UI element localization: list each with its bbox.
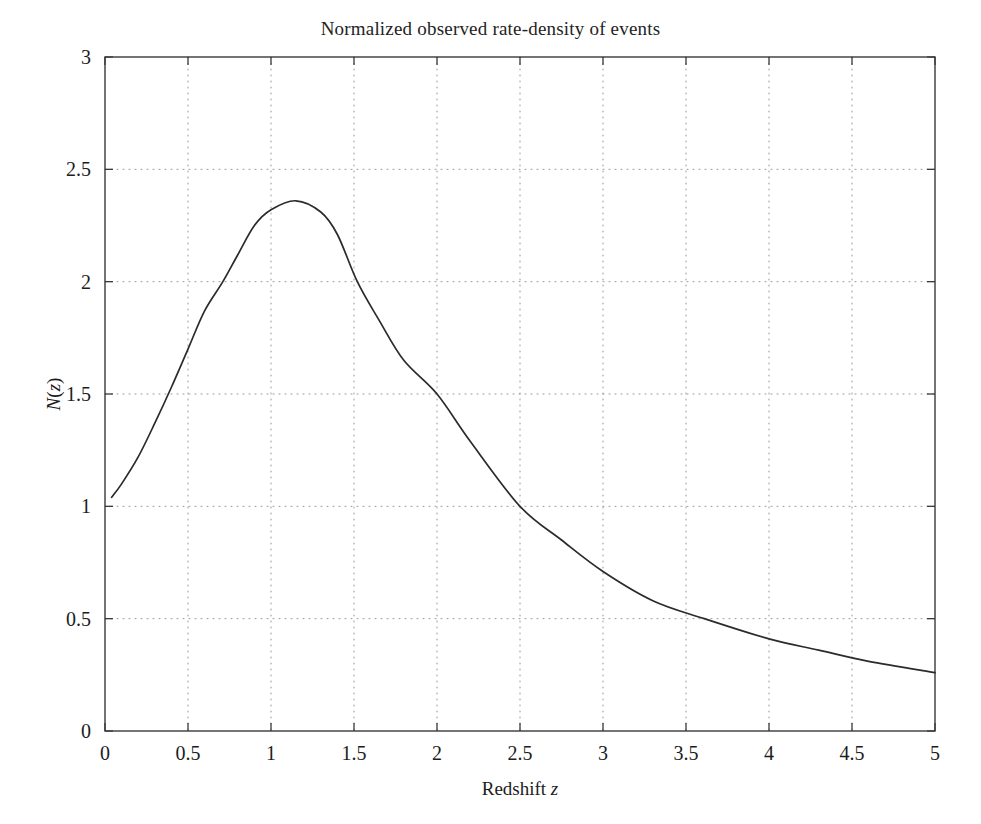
- y-axis-tick-label: 0.5: [66, 608, 91, 630]
- x-axis-tick-label: 3: [598, 742, 608, 764]
- x-axis-title: Redshift z: [482, 778, 559, 799]
- x-axis-tick-label: 5: [930, 742, 940, 764]
- x-axis-tick-label: 1: [266, 742, 276, 764]
- x-axis-tick-label: 2: [432, 742, 442, 764]
- y-axis-tick-labels: 00.511.522.53: [66, 46, 91, 742]
- y-axis-title: N(z): [43, 378, 65, 412]
- x-axis-tick-label: 4.5: [840, 742, 865, 764]
- y-axis-tick-label: 1: [81, 495, 91, 517]
- x-axis-tick-label: 4: [764, 742, 774, 764]
- y-axis-tick-label: 0: [81, 720, 91, 742]
- figure-root: Normalized observed rate-density of even…: [0, 0, 981, 824]
- y-axis-tick-label: 3: [81, 46, 91, 68]
- data-series-line: [112, 201, 935, 673]
- x-axis-tick-label: 0: [100, 742, 110, 764]
- x-axis-tick-label: 2.5: [508, 742, 533, 764]
- x-axis-tick-label: 3.5: [674, 742, 699, 764]
- x-axis-tick-labels: 00.511.522.533.544.55: [100, 742, 940, 764]
- y-axis-tick-label: 1.5: [66, 383, 91, 405]
- plot-canvas: 00.511.522.533.544.55 00.511.522.53 Reds…: [0, 0, 981, 824]
- y-axis-tick-label: 2: [81, 271, 91, 293]
- x-axis-tick-label: 1.5: [342, 742, 367, 764]
- y-axis-tick-label: 2.5: [66, 158, 91, 180]
- x-axis-tick-label: 0.5: [176, 742, 201, 764]
